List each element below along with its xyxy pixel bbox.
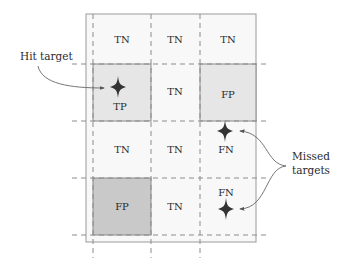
cell-label-r0c1: TN — [167, 34, 183, 45]
cell-label-r2c0: TN — [114, 144, 130, 155]
cell-label-r1c0: TP — [113, 101, 127, 112]
cell-label-r3c2: FN — [218, 187, 234, 198]
hit-target-label: Hit target — [20, 50, 74, 62]
cell-label-r0c2: TN — [220, 34, 236, 45]
cell-tp-shade — [93, 64, 151, 121]
cell-label-r2c1: TN — [167, 144, 183, 155]
classification-grid-diagram: TN TN TN TP TN FP TN TN FN FP TN FN Hit … — [0, 0, 344, 265]
missed-targets-label-line2: targets — [292, 164, 330, 176]
cell-label-r0c0: TN — [114, 34, 130, 45]
cell-label-r1c1: TN — [167, 86, 183, 97]
cell-label-r2c2: FN — [218, 144, 234, 155]
cell-label-r3c0: FP — [115, 201, 129, 212]
cell-label-r3c1: TN — [167, 201, 183, 212]
missed-targets-label-line1: Missed — [292, 150, 330, 162]
cell-label-r1c2: FP — [221, 89, 235, 100]
